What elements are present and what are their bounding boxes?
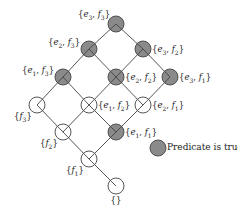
node-label-empty: {} xyxy=(111,195,122,205)
node-label-e2f1: {e2, f1} xyxy=(152,100,184,112)
node-label-e3f3: {e3, f3} xyxy=(78,9,110,21)
node-label-e1f3: {e1, f3} xyxy=(22,65,54,77)
legend-label: Predicate is true xyxy=(167,142,238,152)
node-label-f3: {f3} xyxy=(14,111,32,123)
node-label-e3f2: {e3, f2} xyxy=(152,44,184,56)
node-label-e2f3: {e2, f3} xyxy=(48,37,80,49)
node-label-f2: {f2} xyxy=(40,138,58,150)
node-label-e1f1: {e1, f1} xyxy=(125,127,157,139)
node-label-e1f2: {e1, f2} xyxy=(98,100,130,112)
node-label-f1: {f1} xyxy=(66,165,84,177)
legend-true-swatch xyxy=(150,140,166,156)
node-label-e2f2: {e2, f2} xyxy=(125,72,157,84)
node-label-e3f1: {e3, f1} xyxy=(179,72,211,84)
